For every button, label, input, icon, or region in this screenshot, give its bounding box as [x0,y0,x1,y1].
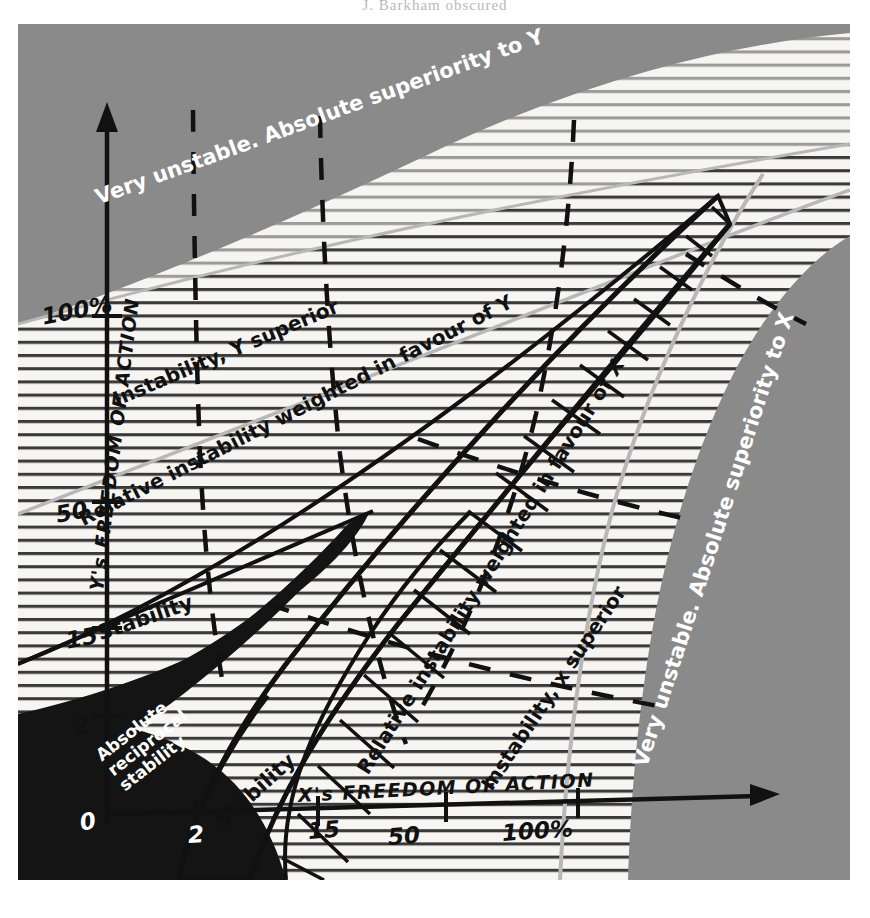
running-header: J. Barkham obscured [0,0,870,22]
x-tick-100: 100% [501,815,574,846]
chart-plot-area: Very unstable. Absolute superiority to Y… [18,24,850,880]
x-tick-2: 2 [187,821,205,848]
x-tick-50: 50 [387,822,421,850]
x-tick-15: 15 [307,816,341,844]
